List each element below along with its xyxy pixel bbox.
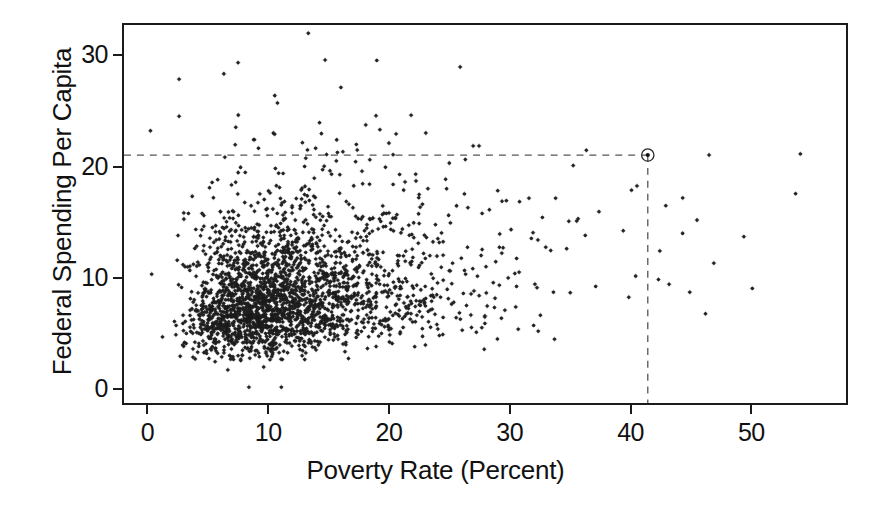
x-tick-label: 20 (359, 417, 419, 447)
x-tick-label: 0 (117, 417, 177, 447)
guide-lines-layer (124, 155, 648, 403)
y-tick-mark (113, 54, 122, 56)
scatter-plot-figure: 32 counties with higher federal spending… (0, 0, 871, 507)
scatter-point-arms (148, 31, 803, 390)
plot-area (122, 23, 848, 405)
scatter-canvas (124, 25, 846, 403)
x-axis-title: Poverty Rate (Percent) (0, 455, 871, 486)
x-tick-mark (630, 405, 632, 414)
data-points-layer (148, 31, 803, 390)
x-tick-mark (750, 405, 752, 414)
x-tick-mark (388, 405, 390, 414)
y-tick-mark (113, 166, 122, 168)
x-tick-mark (267, 405, 269, 414)
x-tick-label: 10 (238, 417, 298, 447)
y-axis-title: Federal Spending Per Capita (47, 2, 78, 422)
y-tick-mark (113, 388, 122, 390)
y-tick-mark (113, 277, 122, 279)
x-tick-label: 40 (601, 417, 661, 447)
x-tick-mark (509, 405, 511, 414)
highlight-point-marker (646, 153, 650, 157)
x-tick-label: 30 (480, 417, 540, 447)
x-tick-label: 50 (721, 417, 781, 447)
x-tick-mark (146, 405, 148, 414)
